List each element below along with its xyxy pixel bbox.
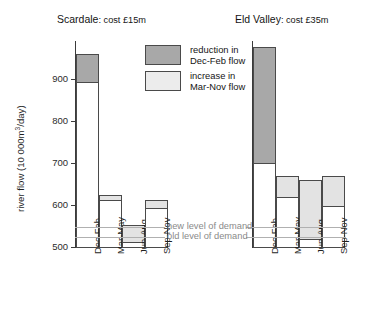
y-tick-mark-500 bbox=[71, 247, 75, 248]
panel-title-eld-valley-name: Eld Valley bbox=[235, 13, 281, 25]
demand-label-new-level-of-demand: new level of demand bbox=[167, 221, 252, 231]
legend-swatch-increase bbox=[145, 71, 181, 91]
legend-label-increase-line2: Mar-Nov flow bbox=[190, 82, 245, 93]
x-tick-label-eld-valley-sep-nov: Sep-Nov bbox=[338, 218, 349, 254]
legend-label-increase-line1: increase in bbox=[190, 71, 245, 82]
bar-segment-increase-scardale-mar-may bbox=[100, 196, 121, 201]
y-tick-label-800: 800 bbox=[35, 115, 68, 126]
bar-segment-increase-eld-valley-sep-nov bbox=[323, 177, 344, 207]
y-axis-label-pre: river flow (10 000m bbox=[15, 130, 26, 212]
legend-label-reduction: reduction in Dec-Feb flow bbox=[190, 45, 245, 66]
y-tick-mark-900 bbox=[71, 79, 75, 80]
panel-title-scardale-name: Scardale bbox=[57, 13, 98, 25]
y-tick-mark-800 bbox=[71, 121, 75, 122]
legend-swatch-reduction bbox=[145, 45, 181, 65]
bar-segment-increase-scardale-sep-nov bbox=[146, 201, 167, 210]
y-tick-mark-700 bbox=[71, 163, 75, 164]
y-axis-label-exponent: 3 bbox=[14, 127, 21, 131]
panel-title-scardale-cost: : cost £15m bbox=[98, 15, 146, 25]
bar-segment-increase-eld-valley-mar-may bbox=[277, 177, 298, 198]
bar-segment-reduction-scardale-dec-feb bbox=[77, 55, 98, 83]
y-tick-label-900: 900 bbox=[35, 73, 68, 84]
legend-label-increase: increase in Mar-Nov flow bbox=[190, 71, 245, 92]
panel-title-eld-valley-cost: : cost £35m bbox=[281, 15, 329, 25]
demand-line-left-new-level-of-demand bbox=[75, 227, 165, 228]
y-tick-mark-600 bbox=[71, 205, 75, 206]
demand-label-old-level-of-demand: old level of demand bbox=[167, 231, 248, 241]
chart-figure: Scardale: cost £15m Eld Valley: cost £35… bbox=[0, 0, 366, 327]
y-axis-label-post: /day) bbox=[15, 105, 26, 126]
legend-label-reduction-line1: reduction in bbox=[190, 45, 245, 56]
y-tick-label-600: 600 bbox=[35, 199, 68, 210]
panel-title-eld-valley: Eld Valley: cost £35m bbox=[235, 13, 328, 25]
demand-line-left-old-level-of-demand bbox=[75, 237, 165, 238]
bar-segment-reduction-eld-valley-dec-feb bbox=[254, 48, 275, 164]
y-tick-label-700: 700 bbox=[35, 157, 68, 168]
y-tick-label-500: 500 bbox=[35, 241, 68, 252]
panel-title-scardale: Scardale: cost £15m bbox=[57, 13, 146, 25]
legend-label-reduction-line2: Dec-Feb flow bbox=[190, 56, 245, 67]
demand-line-right-new-level-of-demand bbox=[255, 227, 346, 228]
demand-line-right-old-level-of-demand bbox=[255, 237, 346, 238]
y-axis-label: river flow (10 000m3/day) bbox=[14, 105, 26, 212]
